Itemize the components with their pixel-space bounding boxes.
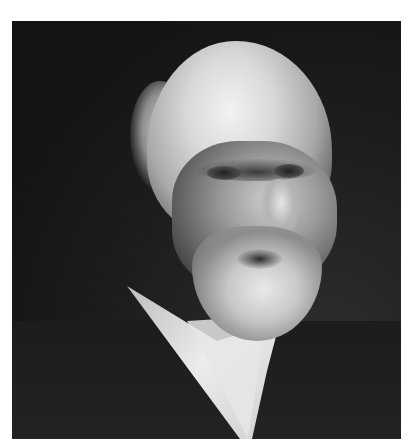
mustache-shadow	[237, 249, 282, 269]
portrait-photo	[12, 21, 401, 439]
right-eye	[274, 164, 304, 178]
left-eye	[207, 166, 241, 180]
